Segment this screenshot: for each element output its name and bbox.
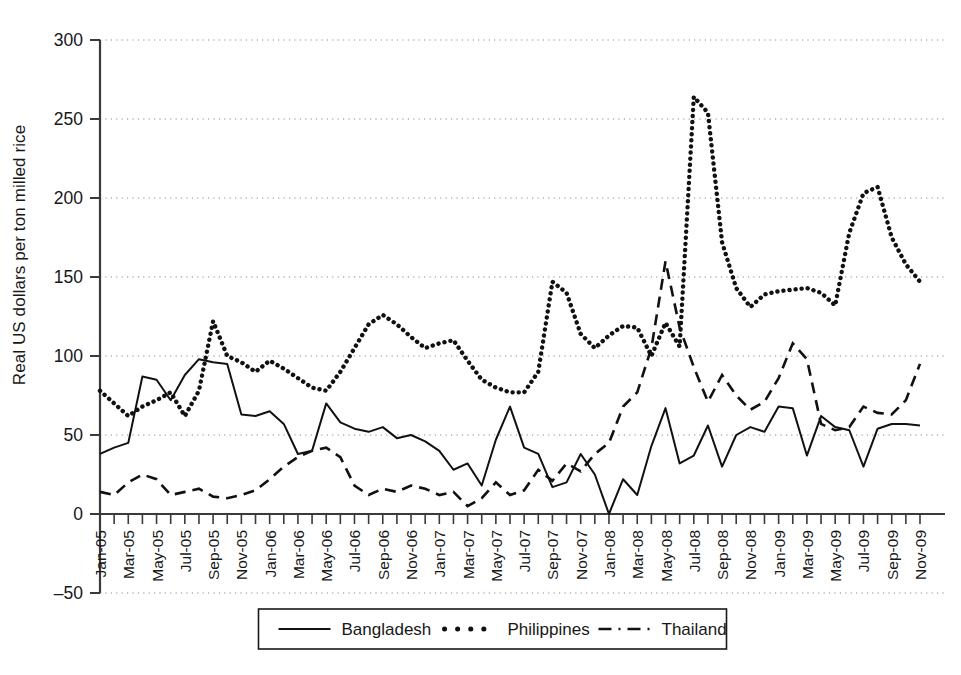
x-tick-label: Nov-09 [912, 530, 929, 580]
series-line-thailand [100, 261, 920, 506]
x-tick-label: Sep-07 [544, 530, 561, 580]
y-tick-label: –50 [54, 583, 83, 603]
x-tick-label: Nov-08 [742, 530, 759, 580]
x-tick-label: Jul-09 [855, 530, 872, 572]
x-tick-label: Nov-07 [573, 530, 590, 580]
gridlines [100, 40, 945, 593]
axes: –50050100150200250300 [54, 30, 945, 603]
x-axis-ticks: Jan-05Mar-05May-05Jul-05Sep-05Nov-05Jan-… [92, 514, 929, 582]
x-tick-label: Mar-08 [629, 530, 646, 579]
x-tick-label: Mar-07 [460, 530, 477, 579]
x-tick-label: Jan-05 [92, 530, 109, 577]
x-tick-label: Jul-07 [516, 530, 533, 572]
x-tick-label: Nov-06 [403, 530, 420, 580]
x-tick-label: Jan-08 [601, 530, 618, 577]
x-tick-label: Jul-05 [177, 530, 194, 572]
y-tick-label: 100 [54, 346, 83, 366]
series-line-bangladesh [100, 359, 920, 514]
y-axis-title: Real US dollars per ton milled rice [10, 10, 44, 500]
x-tick-label: Jul-06 [346, 530, 363, 572]
x-tick-label: May-08 [658, 530, 675, 582]
y-tick-label: 200 [54, 188, 83, 208]
x-tick-label: Jan-06 [262, 530, 279, 577]
x-tick-label: Sep-06 [375, 530, 392, 580]
legend-label: Philippines [508, 620, 590, 639]
chart-canvas: –50050100150200250300Jan-05Mar-05May-05J… [0, 0, 961, 675]
x-tick-label: Sep-08 [714, 530, 731, 580]
x-tick-label: May-06 [318, 530, 335, 582]
x-tick-label: Mar-06 [290, 530, 307, 579]
x-tick-label: May-05 [149, 530, 166, 582]
x-tick-label: May-07 [488, 530, 505, 582]
legend: BangladeshPhilippinesThailand [259, 609, 727, 649]
y-tick-label: 50 [64, 425, 84, 445]
x-tick-label: Jan-09 [771, 530, 788, 577]
x-tick-label: May-09 [827, 530, 844, 582]
chart-figure: Real US dollars per ton milled rice –500… [0, 0, 961, 675]
legend-label: Bangladesh [342, 620, 432, 639]
x-tick-label: Jul-08 [686, 530, 703, 572]
data-series [100, 97, 920, 514]
y-tick-label: 250 [54, 109, 83, 129]
x-tick-label: Sep-09 [884, 530, 901, 580]
x-tick-label: Mar-09 [799, 530, 816, 579]
x-tick-label: Jan-07 [431, 530, 448, 577]
y-tick-label: 150 [54, 267, 83, 287]
x-tick-label: Nov-05 [233, 530, 250, 580]
x-tick-label: Mar-05 [120, 530, 137, 579]
y-tick-label: 300 [54, 30, 83, 50]
x-tick-label: Sep-05 [205, 530, 222, 580]
y-tick-label: 0 [73, 504, 83, 524]
series-line-philippines [100, 97, 920, 416]
legend-label: Thailand [662, 620, 727, 639]
